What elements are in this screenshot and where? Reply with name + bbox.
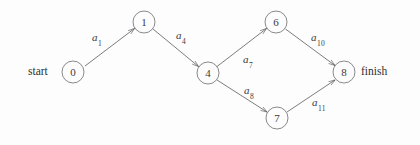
edge-label-a7-base: a xyxy=(243,53,249,65)
edge-label-a1-base: a xyxy=(92,31,98,43)
node-label-0: 0 xyxy=(62,61,84,83)
edge-label-a8-base: a xyxy=(244,84,250,96)
activity-network-diagram: 0 1 4 6 7 8 start finish a1 a4 a7 a8 a10… xyxy=(0,0,420,145)
edge-label-a1-subscript: 1 xyxy=(98,39,102,48)
node-label-4: 4 xyxy=(197,62,219,84)
node-label-7: 7 xyxy=(266,107,288,129)
node-label-8: 8 xyxy=(333,61,355,83)
edge-4-to-7 xyxy=(217,80,267,112)
edge-label-a1: a1 xyxy=(92,31,101,43)
finish-label: finish xyxy=(361,65,387,78)
edge-label-a7: a7 xyxy=(243,53,252,65)
node-label-1: 1 xyxy=(133,11,155,33)
edge-label-a10: a10 xyxy=(311,31,324,43)
edge-7-to-8 xyxy=(287,80,335,112)
edge-label-a11: a11 xyxy=(312,96,325,108)
edge-label-a11-subscript: 11 xyxy=(318,104,326,113)
edge-label-a11-base: a xyxy=(312,96,318,108)
start-label: start xyxy=(28,65,48,78)
edge-label-a4: a4 xyxy=(176,29,185,41)
edge-4-to-6 xyxy=(217,29,267,67)
edge-label-a4-subscript: 4 xyxy=(182,37,186,46)
edge-label-a4-base: a xyxy=(176,29,182,41)
edge-label-a10-base: a xyxy=(311,31,317,43)
edge-label-a8: a8 xyxy=(244,84,253,96)
edge-label-a7-subscript: 7 xyxy=(249,61,253,70)
edge-label-a8-subscript: 8 xyxy=(250,92,254,101)
node-label-6: 6 xyxy=(265,11,287,33)
edge-label-a10-subscript: 10 xyxy=(317,39,325,48)
